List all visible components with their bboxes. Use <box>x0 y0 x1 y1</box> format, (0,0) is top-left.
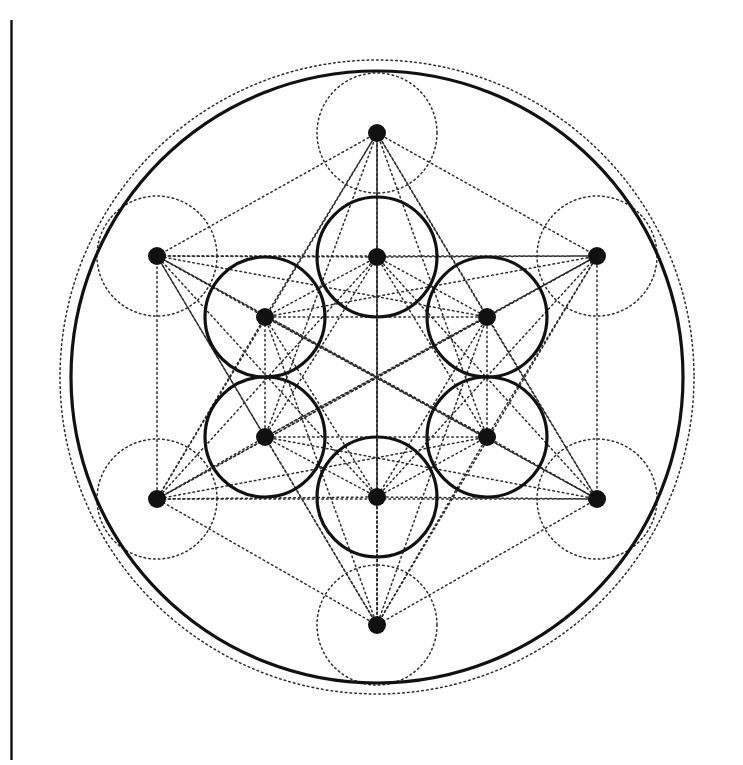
vertex-node-outer-upper-left <box>148 247 166 265</box>
vertex-node-outer-upper-right <box>588 247 606 265</box>
vertex-node-inner-upper-left <box>256 308 274 326</box>
metatrons-cube-figure <box>0 0 743 765</box>
vertex-node-inner-bottom <box>368 488 386 506</box>
vertex-node-outer-lower-left <box>148 490 166 508</box>
figure-canvas <box>0 0 743 765</box>
vertex-node-outer-bottom <box>368 616 386 634</box>
vertex-node-inner-lower-left <box>256 428 274 446</box>
vertex-node-inner-top <box>368 248 386 266</box>
vertex-node-inner-lower-right <box>478 428 496 446</box>
vertex-node-inner-upper-right <box>478 308 496 326</box>
figure-background <box>0 0 743 765</box>
vertex-node-outer-top <box>368 124 386 142</box>
vertex-node-outer-lower-right <box>588 490 606 508</box>
